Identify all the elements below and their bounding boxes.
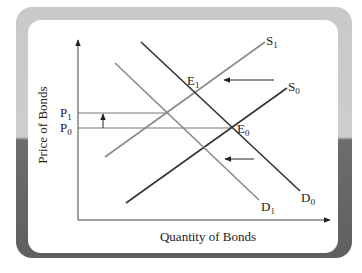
curve-label-s1: S1: [266, 33, 278, 50]
x-axis-label: Quantity of Bonds: [160, 229, 256, 245]
demand-curve-d0: [141, 42, 300, 191]
price-label-p0: P0: [60, 120, 72, 137]
curve-label-d1: D1: [261, 199, 275, 216]
supply-curve-s1: [105, 42, 265, 157]
y-axis-label: Price of Bonds: [35, 86, 51, 163]
equilibrium-label-e0: E0: [237, 121, 250, 138]
supply-curve-s0: [126, 88, 287, 203]
curve-label-d0: D0: [301, 190, 315, 207]
equilibrium-label-e1: E1: [187, 73, 199, 90]
curve-label-s0: S0: [288, 79, 300, 96]
